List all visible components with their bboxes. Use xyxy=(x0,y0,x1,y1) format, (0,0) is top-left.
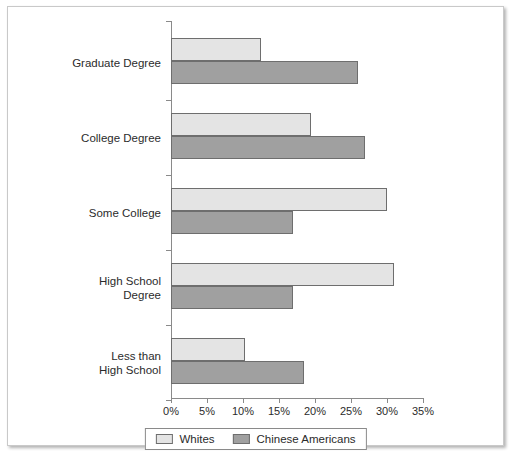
legend-label-whites: Whites xyxy=(179,433,214,445)
category-label: Some College xyxy=(89,206,161,220)
x-axis-tick xyxy=(351,398,352,403)
category-label: College Degree xyxy=(81,131,161,145)
x-axis-tick xyxy=(243,398,244,403)
category-label: Graduate Degree xyxy=(72,56,161,70)
y-axis-tick xyxy=(166,21,171,22)
y-axis-tick xyxy=(166,250,171,251)
bar-group: Less thanHigh School xyxy=(171,325,423,400)
x-axis-tick-label: 10% xyxy=(232,405,254,417)
bar-chinese-americans xyxy=(171,361,304,384)
bar-whites xyxy=(171,113,311,136)
legend-swatch-whites xyxy=(155,434,172,444)
x-axis-tick xyxy=(279,398,280,403)
bar-group: High SchoolDegree xyxy=(171,250,423,325)
bar-group: College Degree xyxy=(171,100,423,175)
plot-area: Graduate DegreeCollege DegreeSome Colleg… xyxy=(171,21,423,399)
bar-whites xyxy=(171,338,245,361)
bar-whites xyxy=(171,188,387,211)
legend-item-chinese-americans: Chinese Americans xyxy=(233,433,356,445)
legend-item-whites: Whites xyxy=(155,433,214,445)
x-axis-tick-label: 35% xyxy=(412,405,434,417)
y-axis-tick xyxy=(166,100,171,101)
bar-chinese-americans xyxy=(171,211,293,234)
legend-swatch-chinese-americans xyxy=(233,434,250,444)
x-axis-tick-label: 25% xyxy=(340,405,362,417)
category-label: Less thanHigh School xyxy=(99,349,161,377)
x-axis-tick xyxy=(315,398,316,403)
x-axis-tick-label: 15% xyxy=(268,405,290,417)
bar-chinese-americans xyxy=(171,136,365,159)
x-axis-tick xyxy=(423,398,424,403)
bar-chinese-americans xyxy=(171,286,293,309)
chart-legend: Whites Chinese Americans xyxy=(144,428,366,450)
chart-screenshot: Graduate DegreeCollege DegreeSome Colleg… xyxy=(0,0,518,462)
chart-frame: Graduate DegreeCollege DegreeSome Colleg… xyxy=(7,6,504,446)
bar-whites xyxy=(171,38,261,61)
x-axis-tick xyxy=(171,398,172,403)
legend-label-chinese-americans: Chinese Americans xyxy=(257,433,356,445)
x-axis-tick-label: 20% xyxy=(304,405,326,417)
x-axis-tick-label: 0% xyxy=(163,405,179,417)
y-axis-tick xyxy=(166,325,171,326)
category-label: High SchoolDegree xyxy=(99,274,161,302)
bar-group: Graduate Degree xyxy=(171,25,423,100)
bar-group: Some College xyxy=(171,175,423,250)
y-axis-tick xyxy=(166,175,171,176)
x-axis-tick-label: 30% xyxy=(376,405,398,417)
bar-whites xyxy=(171,263,394,286)
x-axis-tick xyxy=(207,398,208,403)
x-axis-tick-label: 5% xyxy=(199,405,215,417)
bar-chinese-americans xyxy=(171,61,358,84)
x-axis-tick xyxy=(387,398,388,403)
